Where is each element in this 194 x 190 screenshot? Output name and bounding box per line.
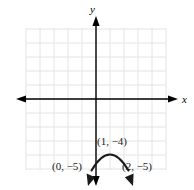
- y-axis-label: y: [89, 3, 95, 15]
- left-point-label: (0, −5): [52, 160, 82, 173]
- x-axis-label: x: [181, 93, 187, 105]
- right-point-label: (2, −5): [122, 160, 152, 173]
- x-axis-left-arrowhead: [16, 95, 26, 102]
- curve-right-arrowhead: [125, 174, 134, 186]
- graph-figure: (1, −4) (0, −5) (2, −5) y x: [0, 0, 194, 190]
- vertex-point-label: (1, −4): [97, 135, 127, 148]
- y-axis-top-arrowhead: [92, 16, 99, 26]
- coordinate-plane: (1, −4) (0, −5) (2, −5) y x: [0, 0, 194, 190]
- x-axis-right-arrowhead: [168, 95, 178, 102]
